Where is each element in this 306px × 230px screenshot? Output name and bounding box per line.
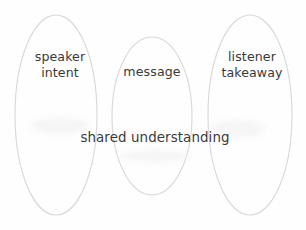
ellipse-outlines-layer: [0, 0, 306, 230]
ellipse-listener-takeaway: [208, 15, 292, 215]
ellipse-message: [112, 37, 192, 195]
label-speaker-intent: speaker intent: [12, 49, 108, 80]
venn-diagram: speaker intent message listener takeaway…: [0, 0, 306, 230]
ellipse-speaker-intent: [15, 15, 97, 215]
label-message: message: [112, 64, 192, 80]
label-listener-takeaway: listener takeaway: [204, 49, 300, 80]
label-shared-understanding: shared understanding: [23, 130, 287, 146]
